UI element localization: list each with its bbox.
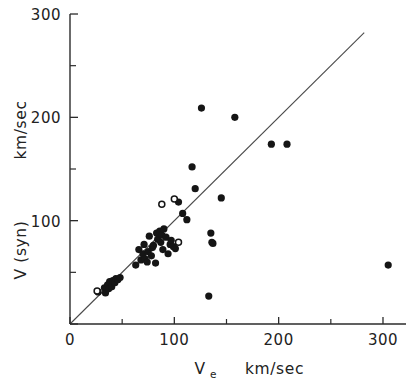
x-tick-label: 200 — [264, 331, 294, 349]
data-point-filled — [140, 241, 147, 248]
data-point-filled — [209, 240, 216, 247]
y-axis-title: V (syn) km/sec — [12, 100, 30, 279]
data-point-filled — [198, 104, 205, 111]
y-axis — [70, 14, 78, 324]
data-point-filled — [152, 259, 159, 266]
x-axis-title-main: V — [194, 360, 205, 378]
x-axis-title-units: km/sec — [245, 360, 304, 378]
data-point-filled — [188, 163, 195, 170]
y-tick-label: 200 — [31, 109, 61, 127]
data-point-open — [176, 239, 182, 245]
y-axis-title-main: V (syn) — [12, 221, 30, 280]
data-point-filled — [283, 141, 290, 148]
scatter-plot-figure: 0100200300 100200300 V e km/sec V (syn) … — [0, 0, 412, 388]
y-tick-label: 300 — [31, 6, 61, 24]
data-point-filled — [157, 239, 164, 246]
data-point-filled — [231, 114, 238, 121]
x-tick-label: 300 — [368, 331, 398, 349]
data-point-filled — [207, 229, 214, 236]
y-tick-label: 100 — [31, 213, 61, 231]
data-series-filled — [95, 104, 392, 299]
data-point-filled — [132, 262, 139, 269]
data-point-filled — [116, 274, 123, 281]
data-point-filled — [183, 216, 190, 223]
y-axis-minor-ticks — [70, 66, 76, 273]
data-point-filled — [146, 233, 153, 240]
data-point-open — [159, 201, 165, 207]
data-point-filled — [164, 250, 171, 257]
x-axis — [70, 317, 406, 324]
data-point-filled — [160, 225, 167, 232]
x-axis-title: V e km/sec — [194, 360, 304, 380]
data-point-filled — [168, 237, 175, 244]
data-point-open — [171, 196, 177, 202]
data-point-open — [94, 288, 100, 294]
y-axis-title-units: km/sec — [12, 100, 30, 159]
plot-canvas: 0100200300 100200300 V e km/sec V (syn) … — [0, 0, 412, 388]
data-point-filled — [144, 258, 151, 265]
x-tick-label: 100 — [159, 331, 189, 349]
x-axis-title-subscript: e — [210, 368, 216, 380]
data-point-filled — [150, 242, 157, 249]
data-point-filled — [268, 141, 275, 148]
data-point-filled — [192, 185, 199, 192]
data-point-filled — [179, 210, 186, 217]
y-axis-tick-labels: 100200300 — [31, 6, 61, 231]
x-axis-tick-labels: 0100200300 — [65, 331, 398, 349]
data-point-filled — [218, 194, 225, 201]
data-point-filled — [205, 293, 212, 300]
data-point-filled — [148, 252, 155, 259]
x-axis-minor-ticks — [122, 319, 331, 324]
data-point-filled — [385, 262, 392, 269]
x-tick-label: 0 — [65, 331, 75, 349]
